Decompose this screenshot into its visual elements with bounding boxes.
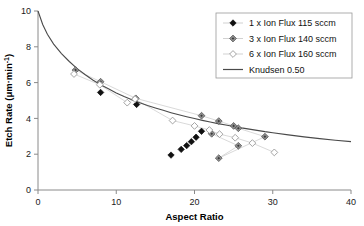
y-tick-label: 0	[26, 185, 31, 195]
x-tick-label: 30	[268, 197, 278, 207]
chart-canvas: 0246810010203040 Aspect RatioEtch Rate (…	[0, 0, 364, 226]
y-tick-label: 4	[26, 114, 31, 124]
data-point-filled-diamond	[198, 128, 204, 134]
y-axis-title: Etch Rate (μm·min-1)	[3, 54, 14, 147]
x-axis-title: Aspect Ratio	[165, 211, 223, 222]
data-point-open-diamond	[271, 149, 278, 156]
data-point-filled-diamond	[97, 89, 103, 95]
legend-label: Knudsen 0.50	[249, 65, 305, 75]
y-tick-label: 8	[26, 42, 31, 52]
y-tick-label: 10	[21, 6, 31, 16]
data-point-filled-diamond	[168, 152, 174, 158]
data-point-filled-diamond	[188, 138, 194, 144]
series-1-points	[72, 67, 268, 162]
etch-rate-vs-aspect-ratio-chart: 0246810010203040 Aspect RatioEtch Rate (…	[0, 0, 364, 226]
legend-label: 6 x Ion Flux 160 sccm	[249, 49, 337, 59]
data-point-filled-diamond	[178, 146, 184, 152]
data-point-filled-diamond	[193, 134, 199, 140]
x-tick-label: 10	[111, 197, 121, 207]
legend-label: 3 x Ion Flux 140 sccm	[249, 34, 337, 44]
data-point-open-diamond	[169, 117, 176, 124]
chart-legend: 1 x Ion Flux 115 sccm3 x Ion Flux 140 sc…	[216, 13, 352, 78]
x-tick-label: 20	[189, 197, 199, 207]
y-tick-label: 2	[26, 149, 31, 159]
x-tick-label: 40	[346, 197, 356, 207]
data-point-open-diamond	[232, 134, 239, 141]
series-connector-lines	[74, 70, 274, 158]
data-point-open-diamond	[249, 140, 256, 147]
data-point-open-diamond	[191, 123, 198, 130]
data-point-filled-diamond	[183, 142, 189, 148]
x-tick-label: 0	[35, 197, 40, 207]
data-points-layer	[71, 67, 278, 162]
y-tick-label: 6	[26, 78, 31, 88]
series-0-points	[97, 89, 204, 158]
legend-label: 1 x Ion Flux 115 sccm	[249, 18, 336, 28]
data-point-open-diamond	[124, 99, 131, 106]
